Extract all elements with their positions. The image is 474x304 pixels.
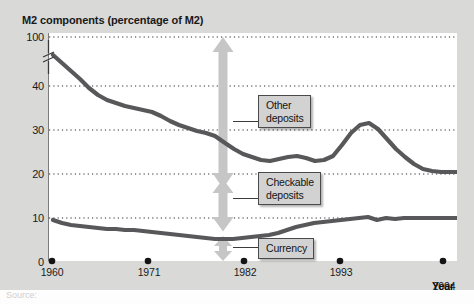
x-tick-label-1982: 1982 (234, 266, 257, 278)
callout-other-deposits-line2: deposits (266, 112, 304, 125)
x-tick-label-1960: 1960 (41, 266, 64, 278)
chart-figure: M2 components (percentage of M2) 100 40 … (0, 0, 474, 304)
figure-footer: Source: (0, 290, 474, 304)
y-tick-40: 40 (10, 80, 44, 92)
x-tick-dot-2004 (440, 258, 447, 265)
callout-currency-line1: Currency (266, 242, 307, 255)
x-tick-dot-1982 (241, 258, 248, 265)
x-tick-dot-1993 (337, 258, 344, 265)
callout-other-deposits-line1: Other (266, 99, 304, 112)
callout-leader-currency (233, 247, 259, 248)
x-tick-dot-1960 (49, 258, 56, 265)
x-tick-label-1993: 1993 (330, 266, 353, 278)
callout-checkable-deposits-line2: deposits (266, 189, 314, 202)
gridlines (49, 37, 457, 218)
y-axis-break-icon (39, 40, 59, 80)
y-tick-20: 20 (10, 168, 44, 180)
arrow-other-deposits (213, 37, 234, 189)
source-note: Source: (6, 290, 37, 300)
series-other-deposits-line (53, 55, 457, 172)
y-tick-30: 30 (10, 124, 44, 136)
plot-canvas (49, 33, 457, 261)
callout-currency: Currency (258, 238, 314, 259)
callout-checkable-deposits-line1: Checkable (266, 176, 314, 189)
x-axis-labels: 1960 1971 1982 1993 2004 (0, 266, 474, 282)
page-title: M2 components (percentage of M2) (22, 14, 203, 26)
callout-leader-checkable-deposits (233, 198, 259, 199)
x-tick-label-1971: 1971 (138, 266, 161, 278)
x-tick-dot-1971 (145, 258, 152, 265)
plot-area (48, 33, 457, 261)
callout-other-deposits: Other deposits (258, 95, 311, 128)
arrow-checkable-deposits (213, 179, 234, 232)
callout-leader-other-deposits (233, 121, 259, 122)
y-tick-10: 10 (10, 212, 44, 224)
callout-checkable-deposits: Checkable deposits (258, 172, 321, 205)
series-currency-line (53, 217, 457, 239)
